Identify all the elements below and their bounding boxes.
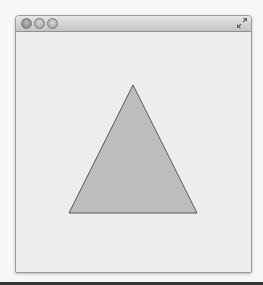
triangle-canvas	[0, 0, 263, 285]
triangle-shape	[69, 85, 197, 213]
